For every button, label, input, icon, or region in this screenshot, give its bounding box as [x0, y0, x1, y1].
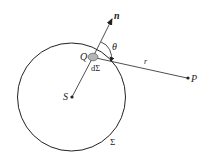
- label-theta: θ: [112, 41, 117, 52]
- label-r: r: [144, 57, 148, 66]
- area-element-patch: [88, 53, 98, 61]
- label-p: P: [190, 73, 197, 84]
- label-sigma: Σ: [110, 137, 115, 147]
- label-d-sigma: dΣ: [91, 63, 100, 73]
- label-q: Q: [80, 51, 88, 62]
- observer-point-p: [186, 76, 189, 79]
- label-s: S: [63, 91, 68, 102]
- diagram-canvas: n θ Q dΣ r P S Σ: [0, 0, 211, 161]
- radius-line: [72, 57, 93, 97]
- source-point-s: [70, 95, 73, 98]
- angle-theta-arc: [101, 42, 112, 61]
- normal-vector-arrow: [93, 19, 112, 57]
- distance-line-r: [96, 58, 187, 78]
- label-n: n: [114, 10, 120, 21]
